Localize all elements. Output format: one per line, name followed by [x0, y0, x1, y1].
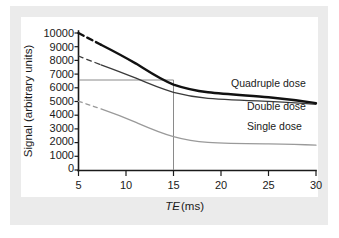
- y-tick-0: 0: [68, 162, 74, 174]
- x-axis-tick-labels: 5 10 15 20 25 30: [75, 179, 322, 191]
- figure-screenshot: 10000 9000 8000 7000 6000 5000 4000 3000…: [0, 0, 339, 238]
- x-axis-tick-marks: [79, 171, 317, 177]
- series-label-double-dose: Double dose: [247, 100, 306, 112]
- x-axis-title-italic: TE: [165, 200, 180, 212]
- y-tick-3000: 3000: [50, 122, 74, 134]
- curve-quadruple-dose: [101, 45, 316, 103]
- y-axis-tick-labels: 10000 9000 8000 7000 6000 5000 4000 3000…: [43, 27, 74, 174]
- y-tick-7000: 7000: [50, 68, 74, 80]
- y-tick-10000: 10000: [43, 27, 74, 39]
- x-axis-title-rest: (ms): [181, 200, 204, 212]
- y-tick-6000: 6000: [50, 81, 74, 93]
- x-tick-10: 10: [120, 179, 132, 191]
- x-tick-5: 5: [75, 179, 81, 191]
- signal-decay-chart: 10000 9000 8000 7000 6000 5000 4000 3000…: [0, 0, 339, 238]
- curve-double-dose-dashed: [79, 56, 102, 65]
- curve-quadruple-dose-dashed: [79, 33, 102, 45]
- series-label-quadruple-dose: Quadruple dose: [231, 77, 306, 89]
- y-tick-9000: 9000: [50, 41, 74, 53]
- y-tick-4000: 4000: [50, 108, 74, 120]
- y-tick-1000: 1000: [50, 149, 74, 161]
- y-tick-8000: 8000: [50, 54, 74, 66]
- y-axis-title: Signal (arbitrary units): [22, 45, 34, 158]
- x-tick-20: 20: [215, 179, 227, 191]
- series-label-single-dose: Single dose: [247, 120, 302, 132]
- curve-single-dose-dashed: [79, 101, 102, 109]
- x-tick-15: 15: [167, 179, 179, 191]
- y-tick-5000: 5000: [50, 95, 74, 107]
- x-tick-30: 30: [310, 179, 322, 191]
- y-tick-2000: 2000: [50, 135, 74, 147]
- x-tick-25: 25: [262, 179, 274, 191]
